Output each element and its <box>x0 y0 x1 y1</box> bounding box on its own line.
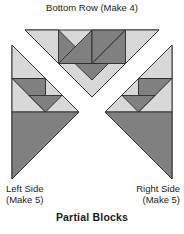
diagram-caption: Partial Blocks <box>0 212 184 223</box>
partial-blocks-diagram: Bottom Row (Make 4) <box>0 0 184 234</box>
left-side-block-label: Left Side (Make 5) <box>6 183 76 205</box>
right-side-block-label: Right Side (Make 5) <box>106 183 180 205</box>
